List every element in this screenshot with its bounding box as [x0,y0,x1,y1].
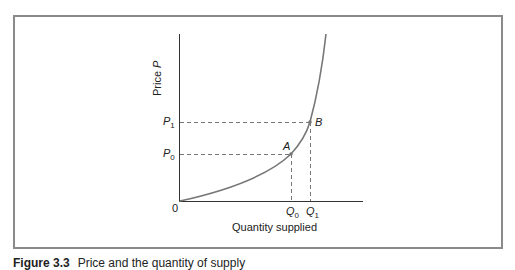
supply-curve [180,34,326,201]
point-a-marker [289,152,293,156]
caption-label: Figure 3.3 [13,256,70,270]
p0-tick-label: P0 [163,148,175,159]
origin-label: 0 [172,203,178,214]
x-axis-label: Quantity supplied [232,222,317,233]
point-a-label: A [283,141,290,152]
y-axis-label: Price P [151,61,163,96]
q1-tick-label: Q1 [306,206,319,217]
point-b-label: B [315,117,322,128]
point-b-marker [308,120,312,124]
q0-tick-label: Q0 [286,206,299,217]
caption-text: Price and the quantity of supply [78,256,245,270]
p1-tick-label: P1 [163,116,175,127]
figure-caption: Figure 3.3Price and the quantity of supp… [13,256,245,270]
